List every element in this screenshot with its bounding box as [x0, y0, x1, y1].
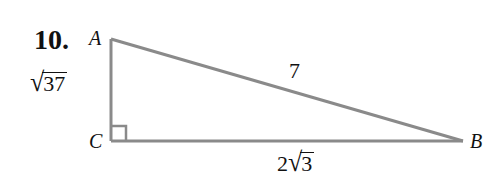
triangle-diagram: 10. A C B √37 7 2 √3	[0, 0, 498, 192]
vertex-label-a: A	[89, 27, 101, 50]
radical-sign: √	[288, 147, 302, 179]
triangle-figure	[0, 0, 498, 192]
radical-expression: √37	[30, 68, 67, 98]
problem-number: 10.	[34, 24, 69, 56]
right-angle-marker	[111, 126, 126, 141]
side-ab	[111, 39, 463, 141]
vertex-label-c: C	[89, 130, 102, 153]
side-label-cb: 2 √3	[277, 148, 314, 178]
coefficient: 2	[277, 151, 288, 176]
radicand: 3	[300, 152, 314, 175]
radicand: 37	[42, 72, 67, 95]
side-label-ac: √37	[30, 68, 67, 98]
radical-sign: √	[30, 67, 44, 99]
side-label-ab: 7	[289, 58, 300, 84]
radical-expression: √3	[288, 148, 314, 178]
vertex-label-b: B	[470, 130, 482, 153]
